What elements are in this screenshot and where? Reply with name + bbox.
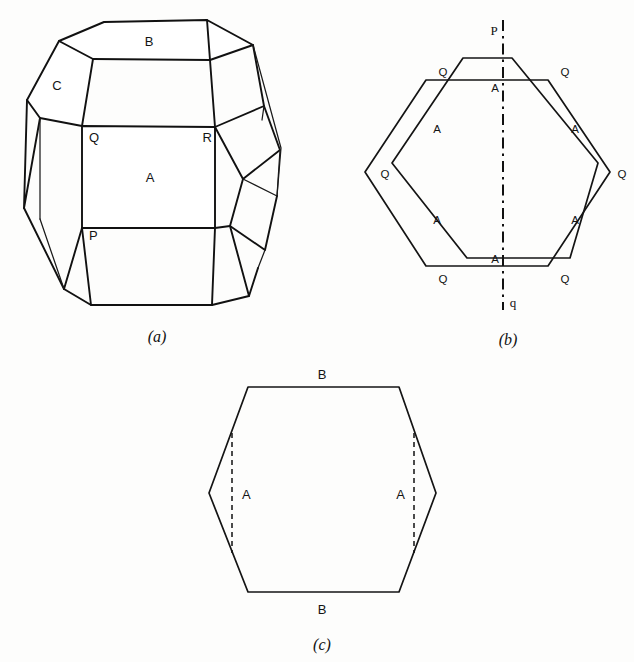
- figure-b-label-a-upper-right: A: [571, 123, 579, 135]
- left-lower-inner-edge: [40, 219, 64, 289]
- left-lower-facet: [24, 208, 82, 289]
- figure-b: P q A A A A A A Q Q Q Q Q Q (b): [365, 20, 627, 349]
- figure-b-hexagon-outer: [365, 80, 610, 266]
- figure-b-label-a-lower-left: A: [433, 214, 441, 226]
- figure-b-axis-label-p: P: [490, 23, 497, 38]
- figure-c-label-b-top: B: [318, 367, 327, 382]
- figure-c-label-a-right: A: [396, 487, 405, 502]
- bottom-front-facet: [82, 228, 215, 305]
- right-far-facet-lower: [230, 196, 277, 250]
- figure-a: B C A Q R P (a): [24, 20, 281, 346]
- bottom-left-edge: [64, 289, 91, 305]
- figure-a-label-a: A: [146, 170, 155, 185]
- figure-a-label-c: C: [52, 78, 61, 93]
- figure-b-label-q-top-left: Q: [439, 66, 448, 78]
- figure-a-faces: [27, 20, 253, 228]
- figure-c-label-a-left: A: [242, 487, 251, 502]
- figure-c: B B A A (c): [209, 367, 436, 654]
- figure-b-label-q-top-right: Q: [561, 66, 570, 78]
- figure-b-label-a-lower-right: A: [571, 214, 579, 226]
- right-far-edge-tail: [258, 250, 265, 268]
- right-lower-join: [215, 226, 230, 228]
- figure-c-caption: (c): [313, 636, 331, 654]
- figure-b-label-q-bottom-left: Q: [439, 273, 448, 285]
- right-lower-facet: [212, 226, 249, 305]
- crystal-figures-svg: B C A Q R P (a) P q A A A A A A Q Q Q Q …: [0, 0, 634, 662]
- figure-c-label-b-bottom: B: [318, 602, 327, 617]
- figure-a-vertex-p: P: [89, 228, 98, 243]
- figure-b-label-q-middle-right: Q: [618, 168, 627, 180]
- right-truncation-facet: [215, 106, 280, 179]
- right-far-facet-upper: [243, 150, 280, 196]
- figure-b-label-a-upper-centre: A: [491, 82, 499, 94]
- figure-b-label-q-middle-left: Q: [381, 168, 390, 180]
- figure-b-label-a-upper-left: A: [433, 123, 441, 135]
- figure-b-caption: (b): [499, 331, 518, 349]
- right-edge-stub: [262, 106, 264, 120]
- figure-b-axis-label-q: q: [510, 295, 517, 310]
- figure-a-vertex-q: Q: [89, 130, 99, 145]
- figure-b-label-a-lower-centre: A: [491, 253, 499, 265]
- figure-b-label-q-bottom-right: Q: [561, 273, 570, 285]
- right-truncation-lower-edge: [230, 179, 243, 226]
- figure-plate: B C A Q R P (a) P q A A A A A A Q Q Q Q …: [0, 0, 634, 662]
- figure-a-vertex-r: R: [203, 130, 212, 145]
- figure-a-caption: (a): [148, 328, 167, 346]
- figure-a-label-b: B: [145, 34, 154, 49]
- right-bottom-outer-edge: [249, 268, 258, 296]
